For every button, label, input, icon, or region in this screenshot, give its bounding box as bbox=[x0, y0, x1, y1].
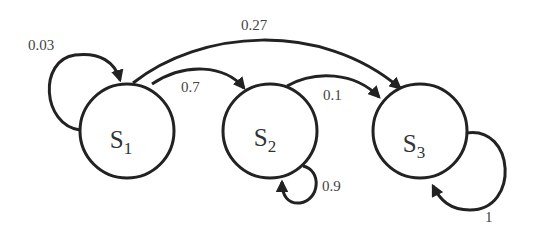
state-s1: S1 bbox=[80, 84, 174, 178]
state-s3-subscript: 3 bbox=[417, 143, 426, 162]
label-s1-s3: 0.27 bbox=[241, 17, 268, 33]
state-diagram: 0.03 0.27 0.7 0.1 0.9 1 S1 S2 S3 bbox=[0, 0, 536, 230]
state-s3: S3 bbox=[373, 84, 467, 178]
label-s2-s3: 0.1 bbox=[323, 87, 342, 103]
state-s2-label: S bbox=[254, 124, 268, 151]
label-s1-s1: 0.03 bbox=[28, 37, 54, 53]
state-s3-label: S bbox=[403, 130, 417, 157]
state-s1-subscript: 1 bbox=[124, 139, 133, 158]
label-s2-s2: 0.9 bbox=[322, 178, 341, 194]
label-s1-s2: 0.7 bbox=[181, 79, 200, 95]
state-s2-subscript: 2 bbox=[268, 137, 277, 156]
state-s2: S2 bbox=[223, 84, 317, 178]
state-s1-label: S bbox=[110, 126, 124, 153]
label-s3-s3: 1 bbox=[485, 209, 493, 225]
edge-s1-s3 bbox=[133, 40, 400, 88]
